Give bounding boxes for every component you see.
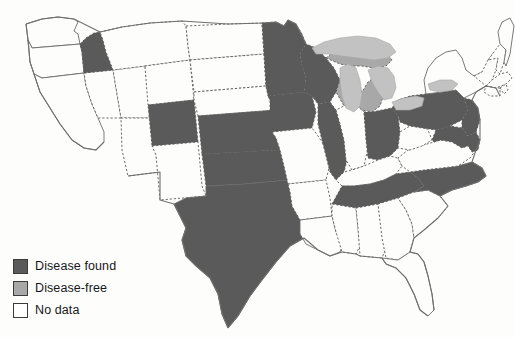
state-ohio[interactable] (364, 108, 400, 160)
legend: Disease found Disease-free No data (13, 256, 163, 322)
state-kansas[interactable] (198, 110, 280, 154)
map-figure: Disease found Disease-free No data (0, 0, 515, 337)
state-delaware[interactable] (468, 132, 480, 152)
legend-swatch-disease-found (13, 259, 28, 274)
legend-label-disease-free: Disease-free (35, 282, 107, 295)
legend-label-no-data: No data (35, 304, 79, 317)
state-north-dakota[interactable] (186, 23, 264, 60)
legend-item-disease-free[interactable]: Disease-free (13, 278, 163, 299)
legend-item-disease-found[interactable]: Disease found (13, 256, 163, 277)
state-south-dakota[interactable] (190, 54, 266, 92)
legend-swatch-disease-free (13, 281, 28, 296)
state-wyoming[interactable] (145, 60, 194, 105)
state-colorado[interactable] (148, 100, 198, 146)
legend-swatch-no-data (13, 303, 28, 318)
legend-label-disease-found: Disease found (35, 260, 116, 273)
legend-item-no-data[interactable]: No data (13, 300, 163, 321)
lake-superior (312, 36, 396, 60)
state-iowa[interactable] (268, 92, 316, 132)
state-oklahoma[interactable] (202, 150, 288, 186)
state-texas[interactable] (174, 180, 310, 328)
state-florida[interactable] (382, 252, 434, 316)
